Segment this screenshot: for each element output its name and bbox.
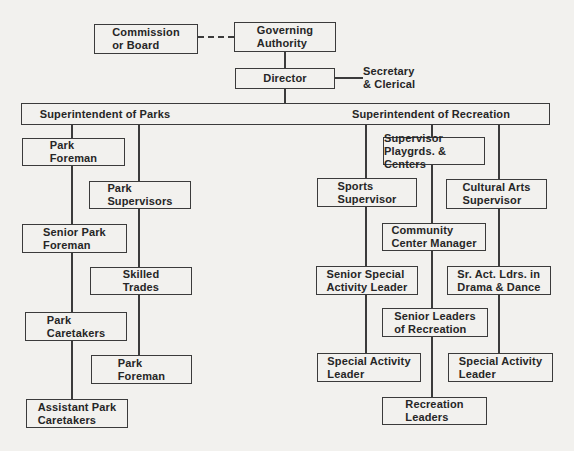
director-label: Director — [263, 72, 306, 85]
park-foreman-upper-box: Park Foreman — [22, 138, 125, 166]
secretary-clerical-label: Secretary & Clerical — [363, 65, 415, 91]
park-caretakers-box: Park Caretakers — [25, 312, 127, 341]
cultural-arts-supervisor-label: Cultural Arts Supervisor — [462, 181, 530, 207]
commission-or-board-box: Commission or Board — [94, 24, 198, 54]
commission-governing-dashed-line — [198, 36, 234, 38]
governing-authority-box: Governing Authority — [234, 22, 336, 52]
park-caretakers-label: Park Caretakers — [47, 314, 105, 340]
director-box: Director — [235, 68, 335, 89]
assistant-park-caretakers-box: Assistant Park Caretakers — [26, 399, 128, 428]
recreation-leaders-label: Recreation Leaders — [405, 398, 463, 424]
park-foreman-lower-box: Park Foreman — [91, 355, 192, 384]
secretary-clerical-box: Secretary & Clerical — [363, 65, 425, 93]
special-activity-leader-east-box: Special Activity Leader — [448, 353, 553, 382]
senior-leaders-of-recreation-label: Senior Leaders of Recreation — [394, 310, 476, 336]
recreation-right-column-line — [498, 124, 500, 355]
recreation-leaders-box: Recreation Leaders — [382, 397, 487, 425]
skilled-trades-box: Skilled Trades — [90, 267, 192, 295]
director-secretary-line — [335, 77, 363, 79]
governing-director-line — [284, 52, 286, 69]
special-activity-leader-west-label: Special Activity Leader — [327, 355, 410, 381]
org-chart-canvas: Superintendent of Parks Superintendent o… — [0, 0, 574, 451]
park-foreman-lower-label: Park Foreman — [118, 357, 166, 383]
director-superintendents-line — [284, 88, 286, 104]
parks-right-column-line — [138, 124, 140, 357]
community-center-manager-label: Community Center Manager — [391, 224, 476, 250]
superintendents-bar: Superintendent of Parks Superintendent o… — [21, 103, 550, 125]
skilled-trades-label: Skilled Trades — [123, 268, 160, 294]
community-center-manager-box: Community Center Manager — [382, 223, 486, 251]
supervisor-playgrds-centers-label: Supervisor Playgrds. & Centers — [384, 132, 484, 171]
park-supervisors-label: Park Supervisors — [107, 182, 172, 208]
commission-or-board-label: Commission or Board — [112, 26, 180, 52]
senior-special-activity-leader-label: Senior Special Activity Leader — [326, 268, 407, 294]
superintendent-of-parks-label: Superintendent of Parks — [40, 108, 171, 120]
recreation-left-column-line — [365, 124, 367, 355]
senior-leaders-of-recreation-box: Senior Leaders of Recreation — [382, 308, 488, 337]
special-activity-leader-west-box: Special Activity Leader — [317, 353, 421, 382]
park-foreman-upper-label: Park Foreman — [50, 139, 98, 165]
sports-supervisor-label: Sports Supervisor — [338, 180, 397, 206]
special-activity-leader-east-label: Special Activity Leader — [459, 355, 542, 381]
assistant-park-caretakers-label: Assistant Park Caretakers — [38, 401, 117, 427]
senior-park-foreman-box: Senior Park Foreman — [22, 224, 127, 253]
sports-supervisor-box: Sports Supervisor — [317, 178, 417, 207]
park-supervisors-box: Park Supervisors — [89, 181, 191, 209]
superintendent-of-recreation-label: Superintendent of Recreation — [352, 108, 510, 120]
supervisor-playgrds-centers-box: Supervisor Playgrds. & Centers — [383, 137, 485, 165]
sr-act-ldrs-in-drama-dance-label: Sr. Act. Ldrs. in Drama & Dance — [457, 268, 540, 294]
cultural-arts-supervisor-box: Cultural Arts Supervisor — [446, 179, 547, 209]
senior-special-activity-leader-box: Senior Special Activity Leader — [316, 266, 418, 295]
senior-park-foreman-label: Senior Park Foreman — [43, 226, 106, 252]
sr-act-ldrs-in-drama-dance-box: Sr. Act. Ldrs. in Drama & Dance — [447, 266, 551, 295]
governing-authority-label: Governing Authority — [257, 24, 313, 50]
